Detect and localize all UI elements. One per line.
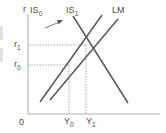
lm-curve [50,19,118,100]
is1-label: IS1 [66,6,78,17]
is0-curve [40,15,102,102]
is-lm-chart-figure: r 0 IS0 IS1 LM r1 r0 Y0 Y1 [0,0,166,133]
y-tick-label-r1: r1 [14,40,21,51]
origin-label: 0 [19,118,24,127]
is-shift-arrow-head [57,20,63,25]
x-tick-label-y1: Y1 [86,117,96,128]
is0-label-sub: 0 [39,10,43,17]
x-tick-label-y1-sub: 1 [92,121,96,128]
x-tick-label-y0-sub: 0 [70,121,74,128]
is1-curve [73,16,128,103]
x-tick-label-y0: Y0 [64,117,74,128]
lm-label: LM [112,6,125,15]
is0-label: IS0 [30,6,42,17]
y-axis-label: r [23,5,26,14]
y-tick-label-r0: r0 [14,60,21,71]
y-tick-label-r1-sub: 1 [17,44,21,51]
is1-label-sub: 1 [75,10,79,17]
chart-canvas [0,0,166,133]
y-tick-label-r0-sub: 0 [17,64,21,71]
